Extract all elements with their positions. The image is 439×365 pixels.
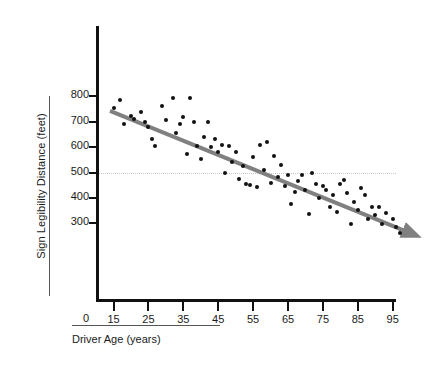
data-point — [328, 205, 332, 209]
data-point — [195, 144, 199, 148]
data-point — [216, 150, 220, 154]
data-point — [380, 222, 384, 226]
x-tick-label-35: 35 — [170, 313, 196, 325]
data-point — [338, 182, 342, 186]
data-point — [300, 173, 304, 177]
x-tick-label-75: 75 — [310, 313, 336, 325]
data-point — [373, 213, 377, 217]
data-point — [241, 164, 245, 168]
reference-line-500 — [99, 173, 396, 174]
data-point — [174, 131, 178, 135]
data-point — [366, 217, 370, 221]
x-tick-15 — [113, 302, 115, 311]
data-point — [272, 154, 276, 158]
x-tick-75 — [322, 302, 324, 311]
x-tick-label-65: 65 — [275, 313, 301, 325]
data-point — [118, 98, 122, 102]
y-tick-label-800: 800 — [55, 88, 89, 100]
data-point — [265, 140, 269, 144]
data-point — [293, 190, 297, 194]
y-tick-label-700: 700 — [55, 114, 89, 126]
data-point — [286, 173, 290, 177]
data-point — [122, 122, 126, 126]
data-point — [237, 177, 241, 181]
data-point — [384, 211, 388, 215]
y-tick-700 — [89, 121, 98, 123]
data-point — [345, 191, 349, 195]
data-point — [255, 185, 259, 189]
data-point — [244, 182, 248, 186]
data-point — [248, 183, 252, 187]
data-point — [279, 163, 283, 167]
x-tick-label-95: 95 — [380, 313, 406, 325]
y-tick-800 — [89, 95, 98, 97]
y-axis-origin-label: 0 — [55, 312, 89, 324]
data-point — [283, 184, 287, 188]
data-point — [112, 106, 116, 110]
data-point — [370, 205, 374, 209]
x-tick-85 — [357, 302, 359, 311]
data-point — [188, 96, 192, 100]
x-tick-25 — [147, 302, 149, 311]
data-point — [213, 137, 217, 141]
data-point — [206, 120, 210, 124]
data-point — [398, 231, 402, 235]
data-point — [209, 145, 213, 149]
data-point — [178, 122, 182, 126]
data-point — [296, 179, 300, 183]
data-point — [146, 125, 150, 129]
y-tick-400 — [89, 197, 98, 199]
y-axis-label-block: Sign Legibility Distance (feet) — [8, 96, 54, 296]
data-point — [324, 188, 328, 192]
data-point — [164, 118, 168, 122]
data-point — [303, 188, 307, 192]
y-tick-label-500: 500 — [55, 165, 89, 177]
y-tick-label-400: 400 — [55, 190, 89, 202]
x-axis-line — [96, 299, 396, 302]
x-tick-45 — [217, 302, 219, 311]
y-axis-label-rule — [49, 96, 50, 296]
data-point — [317, 196, 321, 200]
data-point — [342, 178, 346, 182]
scatter-plot-figure: Sign Legibility Distance (feet) 0 152535… — [0, 0, 439, 365]
y-axis-line — [96, 26, 99, 302]
data-point — [202, 135, 206, 139]
data-point — [132, 117, 136, 121]
y-tick-300 — [89, 222, 98, 224]
data-point — [314, 182, 318, 186]
data-point — [258, 143, 262, 147]
data-point — [356, 208, 360, 212]
data-point — [199, 157, 203, 161]
x-tick-label-25: 25 — [135, 313, 161, 325]
data-point — [185, 152, 189, 156]
data-point — [307, 212, 311, 216]
trendline-arrow — [0, 0, 439, 365]
y-tick-label-300: 300 — [55, 215, 89, 227]
data-point — [359, 186, 363, 190]
x-axis-label: Driver Age (years) — [72, 333, 161, 345]
y-tick-600 — [89, 146, 98, 148]
data-point — [227, 144, 231, 148]
data-point — [335, 210, 339, 214]
data-point — [192, 120, 196, 124]
x-tick-35 — [182, 302, 184, 311]
data-point — [363, 193, 367, 197]
data-point — [129, 114, 133, 118]
data-point — [153, 144, 157, 148]
data-point — [143, 120, 147, 124]
data-point — [394, 225, 398, 229]
data-point — [220, 143, 224, 147]
x-tick-95 — [392, 302, 394, 311]
data-point — [150, 137, 154, 141]
data-points-layer — [0, 0, 439, 365]
data-point — [349, 222, 353, 226]
x-axis-label-rule — [72, 325, 220, 326]
data-point — [269, 181, 273, 185]
data-point — [262, 168, 266, 172]
data-point — [230, 160, 234, 164]
x-tick-65 — [287, 302, 289, 311]
data-point — [289, 202, 293, 206]
x-tick-55 — [252, 302, 254, 311]
y-tick-500 — [89, 172, 98, 174]
data-point — [251, 155, 255, 159]
